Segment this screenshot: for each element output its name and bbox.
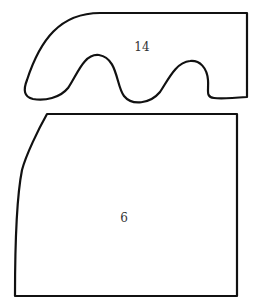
region-14-label: 14 [134,40,149,54]
region-6-label: 6 [120,211,128,225]
region-14-outline [25,13,247,102]
diagram-canvas [0,0,258,305]
region-6-outline [15,114,237,296]
